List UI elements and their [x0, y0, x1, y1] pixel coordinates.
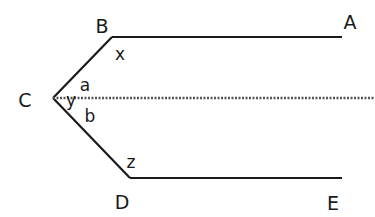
point-label-d: D [115, 193, 130, 212]
point-label-c: C [18, 91, 31, 110]
point-label-b: B [95, 17, 108, 36]
angle-label-x: x [115, 46, 125, 63]
point-label-e: E [327, 194, 339, 213]
geometry-diagram: B A C D E x a y b z [0, 0, 375, 217]
angle-label-a: a [80, 77, 90, 94]
point-label-a: A [344, 13, 357, 32]
angle-label-z: z [127, 154, 136, 171]
angle-label-y: y [66, 92, 76, 109]
diagram-canvas [0, 0, 375, 217]
angle-label-b: b [85, 108, 96, 125]
